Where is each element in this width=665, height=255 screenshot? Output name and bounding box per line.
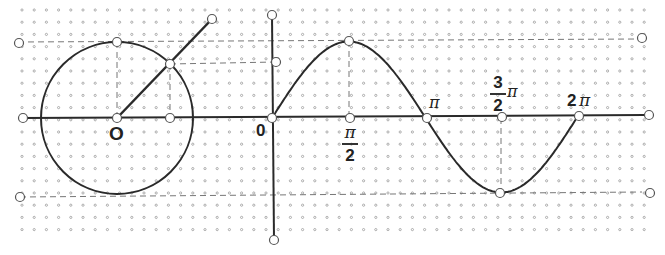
sine-trough-point[interactable] xyxy=(496,189,505,198)
fraction-bar xyxy=(342,143,358,145)
diagram-canvas xyxy=(0,0,665,255)
right-bottom-handle-point[interactable] xyxy=(646,189,655,198)
right-axis-handle-point[interactable] xyxy=(645,111,654,120)
circle-origin-label: O xyxy=(109,124,124,143)
circle-top-point[interactable] xyxy=(113,38,122,47)
two-pi-coefficient: 2 xyxy=(567,92,576,109)
left-top-handle-point[interactable] xyxy=(15,39,24,48)
graph-origin-label: 0 xyxy=(256,122,265,139)
ray-end-point[interactable] xyxy=(208,15,217,24)
y-axis-bottom-point[interactable] xyxy=(270,236,279,245)
half-pi-numerator: π xyxy=(344,124,355,141)
three-half-pi-symbol: π xyxy=(507,84,518,100)
circle-point-point[interactable] xyxy=(166,60,175,69)
y-axis-top-point[interactable] xyxy=(268,11,277,20)
sine-peak-point[interactable] xyxy=(345,37,354,46)
half-pi-label: π 2 xyxy=(342,124,358,164)
left-axis-handle-point[interactable] xyxy=(19,114,28,123)
three-half-denominator: 2 xyxy=(493,97,502,114)
projection-x-point[interactable] xyxy=(166,114,175,123)
left-bottom-handle-point[interactable] xyxy=(16,193,25,202)
pi-point-point[interactable] xyxy=(423,114,432,123)
graph-origin-point[interactable] xyxy=(268,114,277,123)
right-top-handle-point[interactable] xyxy=(638,34,647,43)
circle-center-point[interactable] xyxy=(113,114,122,123)
half-pi-denominator: 2 xyxy=(345,147,354,164)
point-level-dashed-line xyxy=(170,62,276,64)
y-axis xyxy=(272,15,274,240)
fraction-bar xyxy=(490,93,506,95)
pi-label: π xyxy=(429,95,440,111)
sine-unit-circle-diagram: O 0 π 2 π 3 2 π 2 π xyxy=(0,0,665,255)
three-half-numerator: 3 xyxy=(493,74,502,91)
y-axis-projection-point[interactable] xyxy=(272,58,281,67)
three-half-pi-fraction: 3 2 xyxy=(490,74,506,114)
two-pi-symbol: π xyxy=(579,92,590,109)
two-pi-point-point[interactable] xyxy=(575,112,584,121)
